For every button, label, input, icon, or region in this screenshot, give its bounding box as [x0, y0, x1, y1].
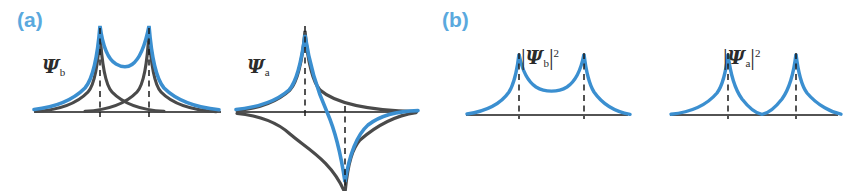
plot-bonding-wavefunction: Ψb — [30, 18, 225, 118]
plot-antibonding-wavefunction: Ψa — [232, 18, 422, 190]
psi-glyph: Ψ — [526, 46, 543, 68]
plot-antibonding-density: |Ψa|2 — [666, 45, 846, 123]
panel-b-tag: (b) — [442, 8, 469, 32]
square-exponent: 2 — [755, 47, 761, 59]
psi-glyph: Ψ — [728, 46, 745, 68]
atomic-orbital-b-curve — [237, 113, 416, 191]
plot-bonding-density: |Ψb|2 — [462, 45, 637, 123]
psi-subscript-b: b — [59, 66, 65, 78]
square-exponent: 2 — [554, 47, 560, 59]
psi-glyph: Ψ — [247, 55, 264, 77]
psi-glyph: Ψ — [42, 55, 59, 77]
figure-root: (a) Ψb — [0, 0, 849, 191]
bonding-wavefunction-label: Ψb — [42, 55, 65, 78]
psi-subscript-a: a — [264, 66, 269, 78]
bonding-density-label: |Ψb|2 — [521, 45, 559, 71]
antibonding-wavefunction-label: Ψa — [247, 55, 270, 78]
antibonding-density-label: |Ψa|2 — [723, 45, 760, 71]
